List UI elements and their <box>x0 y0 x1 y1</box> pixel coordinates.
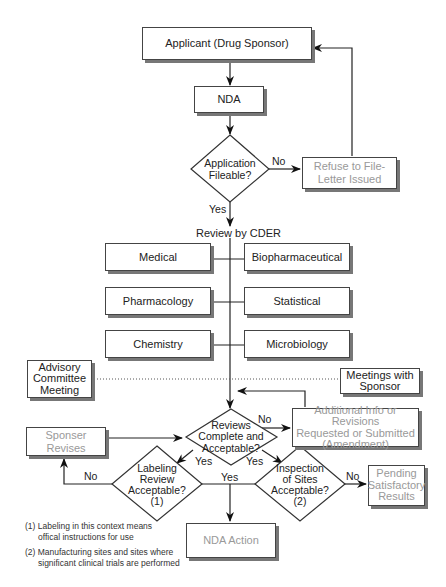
refuse-label-line: Refuse to File- <box>314 160 386 173</box>
biopharmaceutical-label: Biopharmaceutical <box>252 251 343 264</box>
nda-label: NDA <box>217 93 240 106</box>
edge-label-no: No <box>258 413 271 425</box>
nda-action-label: NDA Action <box>203 534 259 547</box>
pharmacology-label: Pharmacology <box>123 295 193 308</box>
chemistry-label: Chemistry <box>133 338 183 351</box>
sponser-revises-label: Sponser Revises <box>27 429 105 455</box>
statistical-box: Statistical <box>244 287 350 315</box>
edge-label-no: No <box>346 470 359 482</box>
medical-label: Medical <box>139 251 177 264</box>
decision-label-line: Acceptable? <box>202 443 260 455</box>
labeling-review-decision: Labeling Review Acceptable? (1) <box>122 461 192 509</box>
review-by-cder-label: Review by CDER <box>196 227 281 239</box>
edge-label-no: No <box>272 155 285 167</box>
biopharmaceutical-box: Biopharmaceutical <box>244 243 350 271</box>
pharmacology-box: Pharmacology <box>105 287 211 315</box>
pending-label-line: Results <box>378 491 415 503</box>
pending-results-box: Pending Satisfactory Results <box>368 465 425 506</box>
additional-info-label-line: Additional Info or Revisions <box>293 405 418 428</box>
advisory-committee-box: Advisory Committee Meeting <box>27 360 92 398</box>
nda-box: NDA <box>194 86 264 113</box>
edge-label-yes: Yes <box>221 471 238 483</box>
decision-label-line: (2) <box>294 496 307 507</box>
edge-label-yes: Yes <box>195 455 212 467</box>
advisory-label-line: Meeting <box>40 385 79 397</box>
meetings-with-sponsor-box: Meetings with Sponsor <box>340 368 420 394</box>
footnote-line: offical instructions for use <box>25 532 152 543</box>
sponser-revises-box: Sponser Revises <box>26 427 106 456</box>
applicant-box: Applicant (Drug Sponsor) <box>142 27 312 60</box>
application-fileable-decision: Application Fileable? <box>195 156 265 182</box>
microbiology-box: Microbiology <box>244 330 350 358</box>
medical-box: Medical <box>105 243 211 271</box>
edge-label-yes: Yes <box>209 203 226 215</box>
statistical-label: Statistical <box>273 295 320 308</box>
footnote-line: significant clinical trials are performe… <box>25 558 180 569</box>
additional-info-box: Additional Info or Revisions Requested o… <box>292 408 419 447</box>
decision-label-line: Application <box>204 157 255 169</box>
microbiology-label: Microbiology <box>266 338 328 351</box>
footnote-1: (1) Labeling in this context means offic… <box>25 521 152 543</box>
edge-label-yes: Yes <box>246 455 263 467</box>
decision-label-line: (1) <box>151 496 164 507</box>
refuse-to-file-box: Refuse to File- Letter Issued <box>302 157 397 189</box>
footnote-2: (2) Manufacturing sites and sites where … <box>25 547 180 569</box>
chemistry-box: Chemistry <box>105 330 211 358</box>
footnote-line: (1) Labeling in this context means <box>25 521 152 532</box>
additional-info-label-line: (Amendment) <box>322 439 389 451</box>
footnote-line: (2) Manufacturing sites and sites where <box>25 547 180 558</box>
applicant-label: Applicant (Drug Sponsor) <box>165 37 289 50</box>
meetings-label-line: Sponsor <box>360 381 401 393</box>
inspection-of-sites-decision: Inspection of Sites Acceptable? (2) <box>265 461 335 509</box>
nda-action-box: NDA Action <box>186 523 276 558</box>
edge-label-no: No <box>84 470 97 482</box>
decision-label-line: Fileable? <box>209 169 252 181</box>
refuse-label-line: Letter Issued <box>318 173 382 186</box>
